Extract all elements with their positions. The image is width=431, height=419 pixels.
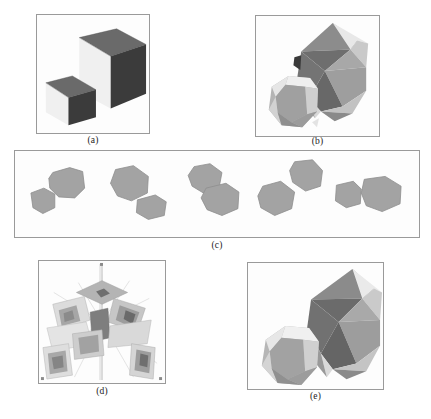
figure-container: (a) xyxy=(0,0,431,419)
panel-d-scene xyxy=(39,261,165,383)
panel-e-scene xyxy=(248,263,383,389)
panel-e xyxy=(247,262,384,390)
panel-c-scene xyxy=(15,151,419,237)
caption-b: (b) xyxy=(255,136,380,146)
caption-e: (e) xyxy=(247,391,384,401)
panel-b xyxy=(255,15,380,137)
panel-b-scene xyxy=(256,16,379,136)
panel-c xyxy=(14,150,420,238)
camera-frustum-lower-left xyxy=(43,344,73,379)
camera-frustum-lower-right xyxy=(130,344,156,379)
caption-a: (a) xyxy=(36,135,150,145)
panel-a xyxy=(36,14,150,134)
caption-d: (d) xyxy=(38,386,166,396)
camera-frustum-lower-center xyxy=(72,330,104,360)
caption-c: (c) xyxy=(14,240,420,250)
panel-d xyxy=(38,260,166,384)
silhouette-blob xyxy=(335,181,361,207)
panel-a-scene xyxy=(37,15,149,133)
